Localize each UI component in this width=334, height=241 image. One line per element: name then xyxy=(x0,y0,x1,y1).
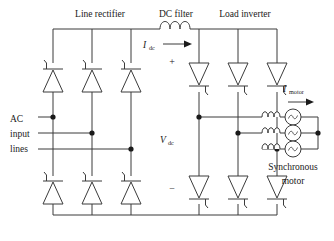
node-motor-b xyxy=(235,130,240,135)
label-idc-subscript: dc xyxy=(149,44,155,51)
label-vdc: V xyxy=(160,135,167,145)
thyristor-rect-top-c xyxy=(121,60,141,92)
thyristor-inv-bot-b xyxy=(228,176,248,208)
motor-phase-b xyxy=(262,125,318,141)
node-ac-c xyxy=(128,146,133,151)
label-synchronous-motor-line1: Synchronous xyxy=(268,162,318,172)
label-ac-line2: input xyxy=(10,129,30,139)
thyristor-inv-top-a xyxy=(189,63,209,95)
thyristor-rect-bot-b xyxy=(82,172,102,204)
circuit-diagram: Line rectifier DC filter Load inverter I… xyxy=(0,0,334,241)
label-vdc-subscript: dc xyxy=(168,139,174,146)
label-ac-line3: lines xyxy=(10,144,28,154)
node-ac-a xyxy=(50,114,55,119)
thyristor-rect-top-a xyxy=(43,60,63,92)
label-load-inverter: Load inverter xyxy=(219,9,271,19)
thyristor-inv-bot-a xyxy=(189,176,209,208)
thyristor-inv-top-b xyxy=(228,63,248,95)
label-idc: I xyxy=(142,40,147,50)
thyristor-rect-bot-a xyxy=(43,172,63,204)
label-vdc-minus: − xyxy=(169,183,175,194)
label-synchronous-motor-line2: motor xyxy=(282,176,306,186)
circuit-canvas: Line rectifier DC filter Load inverter I… xyxy=(0,0,334,241)
label-vdc-plus: + xyxy=(169,56,175,67)
label-line-rectifier: Line rectifier xyxy=(75,9,126,19)
dc-link-inductor xyxy=(160,22,190,30)
thyristor-rect-top-b xyxy=(82,60,102,92)
label-imotor-subscript: motor xyxy=(289,88,304,95)
label-dc-filter: DC filter xyxy=(159,9,194,19)
idc-arrow-head xyxy=(184,41,192,48)
label-ac-line1: AC xyxy=(10,114,23,124)
node-ac-b xyxy=(89,130,94,135)
node-motor-a xyxy=(196,114,201,119)
node-motor-neutral xyxy=(315,130,320,135)
current-imotor-annotation: I motor xyxy=(282,84,314,106)
thyristor-rect-bot-c xyxy=(121,172,141,204)
imotor-arrow-head xyxy=(306,99,314,106)
current-idc-annotation: I dc xyxy=(142,40,192,51)
